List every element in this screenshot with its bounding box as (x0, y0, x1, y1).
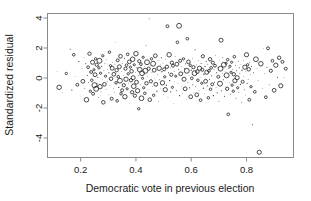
data-point (124, 58, 125, 59)
data-point (148, 89, 149, 90)
data-point (218, 101, 219, 102)
data-point (195, 49, 196, 50)
data-point (191, 70, 192, 71)
data-point (108, 94, 109, 95)
data-point (245, 95, 246, 96)
data-point (163, 94, 164, 95)
data-point (152, 86, 153, 87)
data-point (115, 64, 116, 65)
x-tick-label: 0.4 (129, 164, 142, 175)
y-tick-label: -4 (33, 134, 44, 142)
data-point (173, 103, 174, 104)
data-point (57, 71, 58, 72)
data-point (168, 72, 169, 73)
data-point (135, 72, 136, 73)
data-point (266, 67, 267, 68)
data-point (179, 95, 180, 96)
data-point (71, 89, 72, 90)
data-point (240, 84, 241, 85)
data-point (84, 88, 85, 89)
data-point (82, 68, 83, 69)
data-point (97, 77, 98, 78)
data-point (229, 82, 230, 83)
data-point (98, 97, 99, 98)
y-tick-label: -2 (33, 104, 44, 112)
data-point (108, 72, 109, 73)
x-tick-label: 0.8 (240, 164, 253, 175)
data-point (112, 62, 113, 63)
data-point (138, 75, 139, 76)
x-tick-label: 0.6 (185, 164, 198, 175)
data-point (257, 68, 258, 69)
data-point (215, 55, 216, 56)
data-point (70, 49, 71, 50)
data-point (207, 64, 208, 65)
data-point (204, 93, 205, 94)
data-point (128, 83, 129, 84)
data-point (183, 72, 184, 73)
data-point (158, 101, 159, 102)
data-point (236, 70, 237, 71)
plot-canvas: 0.20.40.60.8 -4-2024 Democratic vote in … (0, 0, 311, 201)
data-point (214, 69, 215, 70)
data-point (228, 68, 229, 69)
data-point (115, 42, 116, 43)
data-point (264, 73, 265, 74)
data-point (209, 79, 210, 80)
data-point (241, 64, 242, 65)
data-point (169, 80, 170, 81)
data-point (232, 69, 233, 70)
data-point (88, 82, 89, 83)
scatter-plot-figure: 0.20.40.60.8 -4-2024 Democratic vote in … (0, 0, 311, 201)
data-point (106, 59, 107, 60)
data-point (238, 92, 239, 93)
data-point (224, 96, 225, 97)
data-point (176, 90, 177, 91)
data-point (102, 79, 103, 80)
data-point (186, 99, 187, 100)
data-point (204, 66, 205, 67)
data-point (159, 79, 160, 80)
data-point (230, 94, 231, 95)
data-point (175, 56, 176, 57)
data-point (214, 82, 215, 83)
data-point (239, 67, 240, 68)
data-point (75, 76, 76, 77)
data-point (250, 74, 251, 75)
data-point (85, 63, 86, 64)
data-point (216, 72, 217, 73)
data-point (222, 73, 223, 74)
data-point (199, 90, 200, 91)
data-point (62, 92, 63, 93)
data-point (203, 88, 204, 89)
y-tick-label: 0 (33, 75, 44, 80)
data-point (160, 64, 161, 65)
data-point (189, 75, 190, 76)
data-point (221, 90, 222, 91)
data-point (201, 63, 202, 64)
data-point (192, 84, 193, 85)
data-point (189, 87, 190, 88)
data-point (163, 63, 164, 64)
data-point (106, 89, 107, 90)
data-point (225, 86, 226, 87)
data-point (103, 70, 104, 71)
data-point (101, 91, 102, 92)
data-point (253, 72, 254, 73)
data-point (241, 102, 242, 103)
data-point (166, 85, 167, 86)
data-point (269, 84, 270, 85)
data-point (170, 67, 171, 68)
y-tick-label: 4 (33, 15, 44, 20)
data-point (165, 59, 166, 60)
data-point (110, 85, 111, 86)
data-point (149, 18, 150, 19)
data-point (198, 60, 199, 61)
data-point (107, 81, 108, 82)
data-point (178, 83, 179, 84)
data-point (249, 62, 250, 63)
data-point (113, 88, 114, 89)
data-point (211, 75, 212, 76)
data-point (194, 92, 195, 93)
data-point (122, 63, 123, 64)
